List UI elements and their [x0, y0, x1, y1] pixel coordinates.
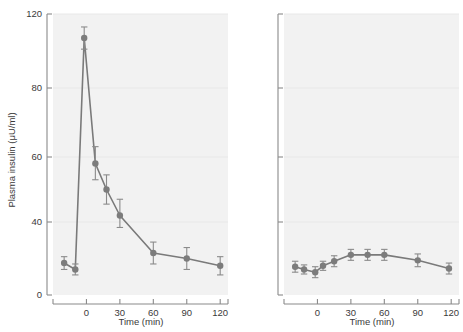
- y-axis-left: [47, 14, 52, 295]
- figure-container: 0406080120 0306090120 Plasma insulin (μU…: [0, 0, 463, 332]
- data-point-marker: [348, 252, 354, 258]
- x-tick-label: 90: [412, 307, 423, 318]
- y-tick-label: 60: [31, 151, 42, 162]
- data-point-marker: [364, 252, 370, 258]
- x-axis-right: [284, 299, 459, 304]
- data-point-marker: [415, 257, 421, 263]
- data-point-marker: [61, 260, 67, 266]
- chart-svg-left: 0406080120 0306090120 Plasma insulin (μU…: [0, 0, 232, 332]
- chart-svg-right: 0306090120 Time (min): [231, 0, 463, 332]
- x-tick-label: 0: [84, 307, 89, 318]
- data-point-marker: [184, 255, 190, 261]
- data-point-marker: [72, 266, 78, 272]
- chart-panel-right: 0306090120 Time (min): [231, 0, 463, 332]
- x-axis-title-left: Time (min): [118, 316, 163, 327]
- data-point-marker: [320, 263, 326, 269]
- data-point-marker: [381, 252, 387, 258]
- data-point-marker: [103, 186, 109, 192]
- y-tick-label: 0: [37, 289, 42, 300]
- x-axis-left: [53, 299, 228, 304]
- y-tick-labels-left: 0406080120: [26, 8, 42, 300]
- data-point-marker: [312, 269, 318, 275]
- data-point-marker: [301, 266, 307, 272]
- chart-panel-left: 0406080120 0306090120 Plasma insulin (μU…: [0, 0, 232, 332]
- y-axis-title: Plasma insulin (μU/ml): [6, 112, 17, 207]
- plot-background-right: [284, 14, 459, 295]
- data-point-marker: [292, 264, 298, 270]
- y-axis-right: [278, 14, 283, 295]
- y-tick-label: 80: [31, 82, 42, 93]
- data-point-marker: [92, 160, 98, 166]
- data-point-marker: [150, 250, 156, 256]
- data-point-marker: [446, 265, 452, 271]
- data-point-marker: [217, 263, 223, 269]
- x-tick-label: 120: [443, 307, 459, 318]
- x-tick-label: 120: [212, 307, 228, 318]
- y-tick-label: 120: [26, 8, 42, 19]
- y-tick-label: 40: [31, 216, 42, 227]
- data-point-marker: [117, 212, 123, 218]
- data-point-marker: [81, 35, 87, 41]
- x-tick-label: 0: [315, 307, 320, 318]
- x-tick-label: 90: [181, 307, 192, 318]
- data-point-marker: [331, 258, 337, 264]
- x-axis-title-right: Time (min): [349, 316, 394, 327]
